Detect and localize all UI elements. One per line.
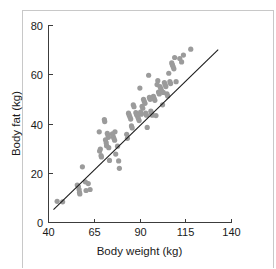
data-point bbox=[80, 164, 85, 169]
data-point bbox=[97, 129, 102, 134]
data-point bbox=[112, 129, 117, 134]
data-point bbox=[146, 73, 151, 78]
data-point bbox=[137, 118, 142, 123]
data-point bbox=[98, 147, 103, 152]
data-point bbox=[165, 93, 170, 98]
data-point bbox=[137, 85, 142, 90]
data-point bbox=[145, 125, 150, 130]
data-point bbox=[112, 138, 117, 143]
y-axis-tick-labels: 020406080 bbox=[31, 20, 43, 229]
data-point bbox=[106, 135, 111, 140]
data-point bbox=[107, 158, 112, 163]
regression-line bbox=[53, 50, 218, 210]
y-tick-label: 20 bbox=[31, 168, 43, 180]
data-point bbox=[142, 101, 147, 106]
data-point bbox=[99, 154, 104, 159]
data-point bbox=[106, 145, 111, 150]
figure-canvas: 020406080 406590115140 Body weight (kg) … bbox=[0, 0, 276, 269]
data-point bbox=[163, 84, 168, 89]
x-tick-label: 65 bbox=[88, 226, 100, 238]
y-tick-label: 40 bbox=[31, 119, 43, 131]
data-point bbox=[179, 59, 184, 64]
y-axis-ticks bbox=[49, 26, 53, 223]
data-point bbox=[77, 191, 82, 196]
data-point bbox=[130, 125, 135, 130]
x-tick-label: 40 bbox=[42, 226, 54, 238]
data-point bbox=[128, 116, 133, 121]
data-point bbox=[152, 98, 157, 103]
data-point bbox=[86, 181, 91, 186]
data-point bbox=[131, 104, 136, 109]
data-point bbox=[139, 112, 144, 117]
data-point bbox=[166, 71, 171, 76]
y-tick-label: 60 bbox=[31, 69, 43, 81]
y-tick-label: 80 bbox=[31, 20, 43, 32]
data-point bbox=[174, 79, 179, 84]
y-axis-title: Body fat (kg) bbox=[10, 91, 22, 156]
data-point bbox=[153, 113, 158, 118]
scatter-plot: 020406080 406590115140 Body weight (kg) … bbox=[0, 0, 276, 269]
x-tick-label: 90 bbox=[134, 226, 146, 238]
x-tick-label: 115 bbox=[177, 226, 195, 238]
data-point bbox=[181, 52, 186, 57]
data-point bbox=[188, 47, 193, 52]
x-tick-label: 140 bbox=[222, 226, 240, 238]
data-point bbox=[140, 106, 145, 111]
data-point bbox=[102, 119, 107, 124]
data-point bbox=[171, 66, 176, 71]
data-point bbox=[172, 55, 177, 60]
x-axis-tick-labels: 406590115140 bbox=[42, 226, 240, 238]
data-point bbox=[117, 166, 122, 171]
data-point bbox=[113, 151, 118, 156]
data-point bbox=[155, 78, 160, 83]
data-point bbox=[87, 187, 92, 192]
data-point bbox=[55, 199, 60, 204]
data-points bbox=[55, 47, 194, 205]
data-point bbox=[116, 158, 121, 163]
data-point bbox=[168, 81, 173, 86]
x-axis-title: Body weight (kg) bbox=[97, 245, 183, 257]
x-axis-ticks bbox=[49, 219, 232, 223]
